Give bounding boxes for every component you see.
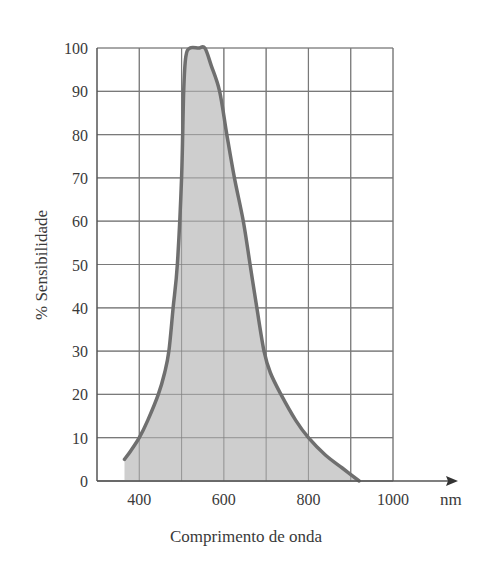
y-tick-label: 70 [72,170,88,187]
y-tick-label: 10 [72,430,88,447]
y-tick-label: 0 [80,473,88,490]
y-tick-label: 50 [72,257,88,274]
x-axis-ticks: 4006008001000 [127,491,409,508]
y-tick-label: 40 [72,300,88,317]
y-tick-label: 80 [72,127,88,144]
sensitivity-chart: 0102030405060708090100 4006008001000 nm … [0,0,504,574]
y-tick-label: 30 [72,343,88,360]
y-axis-title: % Sensibilidade [32,210,51,320]
x-unit-label: nm [440,490,462,509]
x-tick-label: 1000 [377,491,409,508]
y-tick-label: 20 [72,386,88,403]
x-tick-label: 600 [212,491,236,508]
y-tick-label: 100 [64,40,88,57]
y-tick-label: 60 [72,213,88,230]
x-tick-label: 800 [296,491,320,508]
x-tick-label: 400 [127,491,151,508]
y-axis-ticks: 0102030405060708090100 [64,40,88,490]
y-tick-label: 90 [72,83,88,100]
x-axis-title: Comprimento de onda [170,527,322,546]
sensitivity-area [124,47,359,481]
